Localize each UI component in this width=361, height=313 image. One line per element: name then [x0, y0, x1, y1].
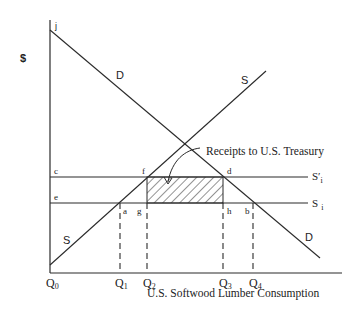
point-a-label: a	[123, 206, 127, 216]
point-d-label: d	[227, 166, 232, 176]
point-f-label: f	[142, 166, 145, 176]
point-h-label: h	[227, 206, 232, 216]
point-e-label: e	[54, 192, 58, 202]
point-j-label: j	[54, 21, 57, 31]
treasury-receipts-area	[147, 177, 223, 203]
softwood-lumber-tariff-diagram: $ j D S S D Receipts to U.S. Treasury c …	[0, 0, 361, 313]
annotation-label: Receipts to U.S. Treasury	[206, 145, 324, 158]
supply-bottom-label: S	[63, 234, 70, 246]
import-supply-label: Si	[312, 197, 324, 212]
y-axis-label: $	[20, 52, 26, 64]
q0-label: Q0	[46, 276, 59, 291]
demand-top-label: D	[116, 69, 124, 81]
x-axis-label: U.S. Softwood Lumber Consumption	[147, 287, 319, 300]
point-c-label: c	[54, 166, 58, 176]
demand-bottom-label: D	[305, 231, 313, 243]
q1-label: Q1	[115, 276, 128, 291]
supply-top-label: S	[241, 74, 248, 86]
import-supply-tax-label: S′i	[312, 170, 324, 185]
point-g-label: g	[137, 206, 142, 216]
point-b-label: b	[245, 206, 250, 216]
supply-curve	[50, 71, 266, 265]
